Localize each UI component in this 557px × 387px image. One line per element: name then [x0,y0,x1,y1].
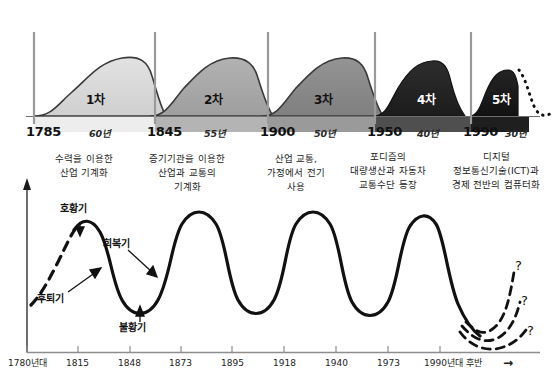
tick-1848: 1848 [118,358,141,369]
bottom-chart-svg [0,0,557,387]
tick-1973: 1973 [377,358,400,369]
future-branch-mid [462,302,520,341]
future-question-low: ? [527,323,534,339]
figure-canvas: 1785 1845 1900 1950 1990 60년 55년 50년 40년… [0,0,557,387]
tick-1873: 1873 [169,358,192,369]
phase-label-boom: 호황기 [60,203,87,215]
timeline-arrow-icon: → [503,356,513,371]
phase-label-recovery: 회복기 [103,238,130,250]
tick-1815: 1815 [66,358,89,369]
tick-1990s-late: 1990년대 후반 [424,358,482,369]
future-question-mid: ? [521,293,528,309]
y-axis-arrow-icon [23,178,31,190]
tick-1895: 1895 [221,358,244,369]
phase-label-depression: 불황기 [119,322,146,334]
tick-1918: 1918 [273,358,296,369]
tick-1940: 1940 [325,358,348,369]
phase-label-recession: 후퇴기 [37,293,64,305]
future-question-high: ? [515,258,522,274]
business-cycle-curve [74,212,480,336]
tick-1780s: 1780년대 [8,358,47,369]
future-branch-high [466,272,514,332]
